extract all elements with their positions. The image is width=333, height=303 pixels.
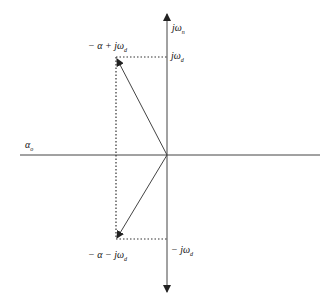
s-plane-diagram bbox=[0, 0, 333, 303]
imag-axis-label: jωn bbox=[172, 22, 185, 35]
pole-vector-bottom bbox=[117, 155, 167, 238]
pole-bottom-label: − α − jωd bbox=[88, 249, 127, 262]
tick-bottom-label: − jωd bbox=[171, 244, 193, 257]
real-axis-label: αo bbox=[25, 139, 33, 152]
pole-vector-top bbox=[117, 59, 167, 155]
tick-top-label: jωd bbox=[171, 50, 184, 63]
pole-top-label: − α + jωd bbox=[88, 40, 127, 53]
